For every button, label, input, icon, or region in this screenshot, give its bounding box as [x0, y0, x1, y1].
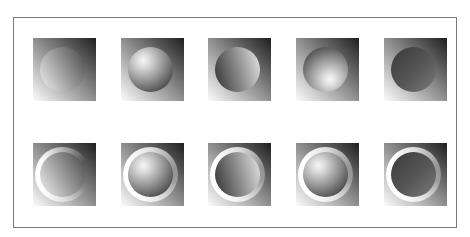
- figure-frame: [13, 17, 457, 228]
- stimulus-tile-r1c3: [208, 38, 271, 101]
- stimulus-tile-r1c2: [121, 38, 184, 101]
- disc-sphere-lit-top-left: [128, 152, 173, 197]
- figure-canvas: [0, 0, 470, 237]
- disc-dark-disc: [391, 47, 436, 92]
- stimulus-tile-r2c3: [208, 143, 271, 206]
- stimulus-tile-r2c5: [384, 143, 447, 206]
- disc-linear-match: [40, 152, 85, 197]
- stimulus-tile-r2c1: [33, 143, 96, 206]
- disc-sphere-lit-top-left: [303, 152, 348, 197]
- disc-sphere-lit-bottom-right: [303, 47, 348, 92]
- stimulus-tile-r1c1: [33, 38, 96, 101]
- disc-linear-reversed: [215, 47, 260, 92]
- disc-dark-disc: [391, 152, 436, 197]
- disc-linear-match: [40, 47, 85, 92]
- stimulus-grid: [33, 38, 447, 206]
- stimulus-tile-r2c4: [296, 143, 359, 206]
- stimulus-tile-r1c4: [296, 38, 359, 101]
- stimulus-tile-r2c2: [121, 143, 184, 206]
- disc-sphere-lit-top-left: [128, 47, 173, 92]
- stimulus-tile-r1c5: [384, 38, 447, 101]
